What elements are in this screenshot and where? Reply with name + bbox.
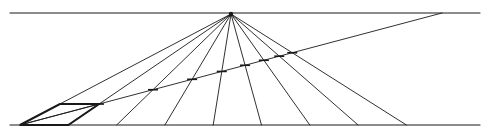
orthogonal-4 <box>165 14 231 125</box>
orthogonal-7 <box>231 14 310 125</box>
orthogonal-8 <box>231 14 358 125</box>
square-diagonal <box>20 104 99 125</box>
vanishing-point <box>229 12 233 16</box>
perspective-diagram <box>0 0 485 138</box>
orthogonal-3 <box>117 14 231 125</box>
orthogonals-group <box>20 14 406 125</box>
